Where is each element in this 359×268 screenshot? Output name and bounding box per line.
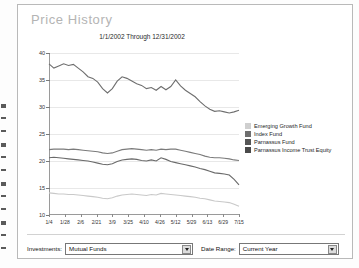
legend-item[interactable]: Emerging Growth Fund (245, 123, 343, 129)
legend-label: Emerging Growth Fund (254, 123, 312, 129)
filter-toolbar: Investments: Mutual Funds Date Range: Cu… (27, 241, 345, 256)
chart-legend: Emerging Growth FundIndex FundParnassus … (245, 123, 343, 155)
y-tick-label: 20 (39, 158, 45, 164)
x-tick-label: 5/12 (171, 219, 181, 225)
legend-label: Parnassus Fund (254, 139, 295, 145)
x-tick (223, 214, 224, 217)
legend-swatch-icon (245, 139, 251, 145)
y-tick-label: 30 (39, 104, 45, 110)
chart-area: 1/1/2002 Through 12/31/2002 101520253035… (27, 30, 345, 230)
investments-label: Investments: (27, 245, 62, 252)
x-tick (49, 214, 50, 217)
x-tick-label: 6/13 (202, 219, 212, 225)
x-tick (160, 214, 161, 217)
x-tick-label: 3/9 (109, 219, 116, 225)
x-tick-label: 1/28 (60, 219, 70, 225)
date-range-select[interactable]: Current Year (239, 243, 339, 255)
series-line (49, 64, 239, 113)
screen: Price History 1/1/2002 Through 12/31/200… (0, 0, 359, 268)
x-tick (65, 214, 66, 217)
legend-item[interactable]: Index Fund (245, 131, 343, 137)
date-range-selected-value: Current Year (240, 245, 278, 252)
toolbar-divider (27, 234, 345, 235)
x-tick (128, 214, 129, 217)
series-lines (49, 53, 239, 215)
series-line (49, 157, 239, 185)
y-tick-label: 15 (39, 185, 45, 191)
chevron-down-icon[interactable] (182, 245, 191, 254)
y-tick-label: 40 (39, 50, 45, 56)
legend-swatch-icon (245, 131, 251, 137)
legend-label: Index Fund (254, 131, 282, 137)
legend-item[interactable]: Parnassus Fund (245, 139, 343, 145)
x-tick (144, 214, 145, 217)
investments-selected-value: Mutual Funds (66, 245, 107, 252)
price-history-panel: Price History 1/1/2002 Through 12/31/200… (17, 4, 353, 259)
x-tick-label: 4/10 (139, 219, 149, 225)
x-tick (176, 214, 177, 217)
y-tick-label: 10 (39, 212, 45, 218)
x-tick-label: 1/4 (46, 219, 53, 225)
x-tick-label: 2/21 (92, 219, 102, 225)
chevron-down-icon[interactable] (328, 245, 337, 254)
legend-swatch-icon (245, 123, 251, 129)
x-tick (97, 214, 98, 217)
legend-swatch-icon (245, 147, 251, 153)
y-tick-label: 35 (39, 77, 45, 83)
legend-label: Parnassus Income Trust Equity (254, 147, 331, 153)
investments-select[interactable]: Mutual Funds (65, 243, 193, 255)
x-tick (192, 214, 193, 217)
plot-region: 10152025303540 1/41/282/62/213/93/254/10… (49, 53, 239, 215)
series-line (49, 149, 239, 161)
date-range-label: Date Range: (201, 245, 236, 252)
x-tick-label: 2/6 (77, 219, 84, 225)
x-tick (81, 214, 82, 217)
series-line (49, 193, 239, 207)
x-tick-label: 6/29 (218, 219, 228, 225)
x-tick-label: 7/15 (234, 219, 244, 225)
chart-subtitle: 1/1/2002 Through 12/31/2002 (27, 33, 257, 40)
x-tick-label: 3/25 (123, 219, 133, 225)
x-tick-label: 5/29 (187, 219, 197, 225)
page-title: Price History (31, 12, 112, 27)
x-tick (112, 214, 113, 217)
legend-item[interactable]: Parnassus Income Trust Equity (245, 147, 343, 153)
x-tick-label: 4/26 (155, 219, 165, 225)
y-tick-label: 25 (39, 131, 45, 137)
page-edge-artifacts (0, 104, 7, 254)
x-tick (207, 214, 208, 217)
x-tick (239, 214, 240, 217)
